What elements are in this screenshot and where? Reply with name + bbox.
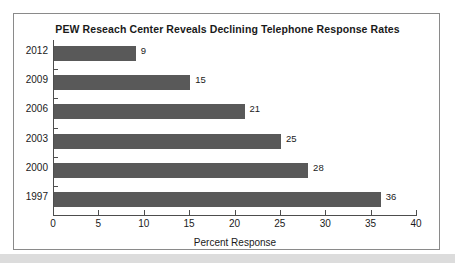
- bar: [54, 192, 381, 207]
- x-tick: [280, 210, 281, 215]
- y-tick-label: 2009: [26, 74, 48, 85]
- bar-value-label: 15: [195, 74, 206, 85]
- x-tick: [416, 210, 417, 215]
- bar-row: 200915: [54, 69, 417, 96]
- y-tick-label: 2006: [26, 103, 48, 114]
- x-tick: [144, 210, 145, 215]
- x-tick: [189, 210, 190, 215]
- bar-value-label: 25: [286, 133, 297, 144]
- chart-frame: PEW Reseach Center Reveals Declining Tel…: [13, 13, 440, 250]
- bar-value-label: 9: [141, 45, 146, 56]
- plot-area: 20129200915200621200325200028199736 0510…: [53, 40, 416, 215]
- x-tick-label: 15: [184, 218, 195, 229]
- x-tick-label: 20: [229, 218, 240, 229]
- chart-title: PEW Reseach Center Reveals Declining Tel…: [14, 23, 441, 35]
- y-tick-label: 1997: [26, 191, 48, 202]
- x-tick: [371, 210, 372, 215]
- bar-row: 199736: [54, 186, 417, 213]
- x-tick-label: 40: [410, 218, 421, 229]
- bar: [54, 46, 136, 61]
- bar: [54, 163, 308, 178]
- page-bottom-band: [0, 254, 455, 263]
- x-tick: [325, 210, 326, 215]
- x-axis-title: Percent Response: [53, 237, 417, 248]
- bar-value-label: 28: [313, 162, 324, 173]
- x-axis-line: [53, 215, 417, 216]
- bar-row: 20129: [54, 40, 417, 67]
- bar: [54, 104, 245, 119]
- x-tick-label: 5: [96, 218, 102, 229]
- x-tick-label: 10: [138, 218, 149, 229]
- y-tick-label: 2000: [26, 162, 48, 173]
- bar-row: 200325: [54, 128, 417, 155]
- bar-row: 200028: [54, 157, 417, 184]
- bar-row: 200621: [54, 98, 417, 125]
- x-tick-label: 30: [320, 218, 331, 229]
- bar: [54, 134, 281, 149]
- x-tick: [98, 210, 99, 215]
- x-tick-label: 0: [50, 218, 56, 229]
- x-tick: [235, 210, 236, 215]
- y-tick-label: 2003: [26, 133, 48, 144]
- y-tick-label: 2012: [26, 45, 48, 56]
- x-tick-label: 25: [274, 218, 285, 229]
- bar: [54, 75, 190, 90]
- x-tick: [53, 210, 54, 215]
- bar-value-label: 36: [386, 191, 397, 202]
- bar-value-label: 21: [250, 103, 261, 114]
- x-tick-label: 35: [365, 218, 376, 229]
